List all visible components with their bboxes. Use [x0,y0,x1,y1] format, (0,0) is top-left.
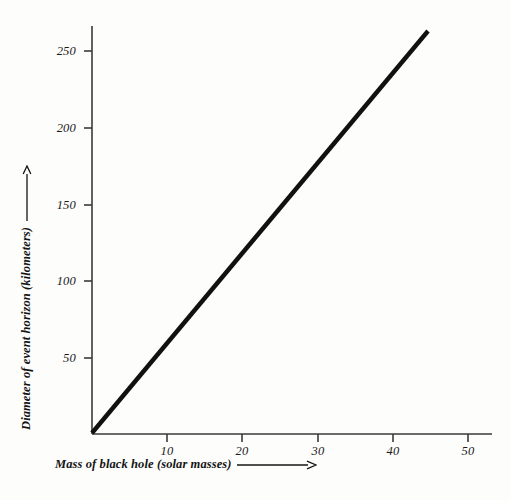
x-axis-title: Mass of black hole (solar masses) [55,457,232,472]
y-axis-arrow-icon [22,165,32,221]
x-axis-arrow-icon [237,460,317,470]
x-axis-title-container: Mass of black hole (solar masses) [55,457,317,472]
chart-canvas [0,0,510,500]
ytick-label-100: 100 [44,274,76,289]
ytick-label-150: 150 [44,198,76,213]
chart-figure: 50 100 150 200 250 10 20 30 40 50 Diamet… [0,0,510,500]
y-axis-title: Diameter of event horizon (kilometers) [19,227,34,430]
y-axis-ticks [84,51,92,358]
ytick-label-50: 50 [48,351,76,366]
plot-area: 50 100 150 200 250 10 20 30 40 50 [0,0,510,500]
ytick-label-250: 250 [44,44,76,59]
xtick-label-40: 40 [387,444,400,459]
y-axis-title-container: Diameter of event horizon (kilometers) [14,150,40,430]
ytick-label-200: 200 [44,121,76,136]
xtick-label-50: 50 [462,444,475,459]
data-series-line [92,31,428,433]
x-axis-ticks [167,434,468,442]
